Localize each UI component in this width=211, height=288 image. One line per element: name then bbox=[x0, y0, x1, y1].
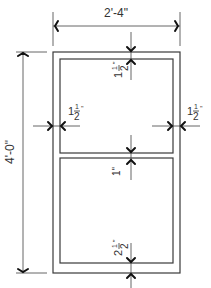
width-label: 2'-4" bbox=[104, 6, 128, 20]
svg-text:1: 1 bbox=[112, 72, 124, 78]
svg-text:1: 1 bbox=[111, 66, 118, 70]
svg-text:2: 2 bbox=[74, 111, 80, 122]
svg-text:2: 2 bbox=[193, 111, 199, 122]
height-label: 4'-0" bbox=[3, 140, 17, 164]
right-frame-dimension bbox=[152, 122, 200, 130]
svg-text:2: 2 bbox=[112, 250, 124, 256]
svg-text:1: 1 bbox=[111, 244, 118, 248]
svg-text:1: 1 bbox=[75, 103, 79, 110]
svg-text:": " bbox=[81, 105, 84, 112]
top-frame-dimension bbox=[127, 32, 135, 80]
svg-text:": " bbox=[112, 239, 119, 242]
svg-text:": " bbox=[112, 61, 119, 64]
mullion-label: 1" bbox=[111, 166, 122, 176]
right-frame-label: 1 1 2 " bbox=[187, 103, 203, 122]
left-frame-label: 1 1 2 " bbox=[68, 103, 84, 122]
svg-text:": " bbox=[200, 105, 203, 112]
window-elevation-drawing: 2'-4" 4'-0" 1 1 2 " 1 1 2 " bbox=[0, 0, 211, 288]
height-dimension bbox=[16, 52, 47, 273]
svg-text:1: 1 bbox=[194, 103, 198, 110]
left-frame-dimension bbox=[33, 122, 80, 130]
svg-text:2: 2 bbox=[119, 243, 130, 249]
bottom-frame-label: 2 1 2 " bbox=[111, 239, 130, 256]
svg-text:2: 2 bbox=[119, 65, 130, 71]
